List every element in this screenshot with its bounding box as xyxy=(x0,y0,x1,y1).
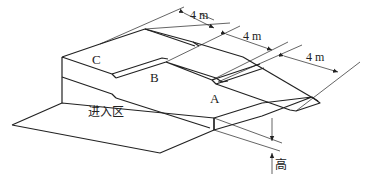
extension-line xyxy=(212,42,288,80)
zone-b-divider xyxy=(193,42,243,57)
extension-line xyxy=(218,45,302,82)
zone-c-label: C xyxy=(92,52,101,67)
zone-c-divider xyxy=(145,29,195,46)
entry-zone-label: 进入区 xyxy=(88,105,124,119)
zone-c-front-face xyxy=(62,77,116,98)
height-label: 高 xyxy=(275,157,287,172)
step-platform-diagram: C B A 进入区 4 m 4 m 4 m 高 xyxy=(0,0,368,174)
dimension-label-2: 4 m xyxy=(243,29,262,43)
dimension-label-1: 4 m xyxy=(190,8,209,22)
zone-b-label: B xyxy=(150,70,159,85)
zone-a-label: A xyxy=(210,91,220,106)
height-extension-line xyxy=(214,130,280,151)
zone-c-outline xyxy=(62,44,116,103)
dimension-label-3: 4 m xyxy=(306,50,325,64)
zone-b-step xyxy=(112,58,168,78)
extension-line xyxy=(166,26,240,62)
extension-line xyxy=(145,23,230,29)
